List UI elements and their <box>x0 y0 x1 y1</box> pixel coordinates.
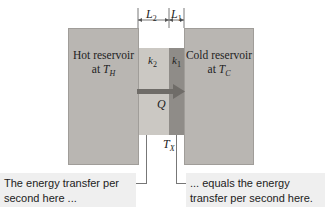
length-label-l1: L1 <box>171 7 182 23</box>
leader-line-left <box>146 135 147 183</box>
interface-temp-label: TX <box>163 137 175 153</box>
cold-reservoir: Cold reservoir at TC <box>184 28 254 165</box>
hot-reservoir-label: Hot reservoir <box>69 48 138 62</box>
cold-reservoir-label: Cold reservoir <box>185 48 253 62</box>
hot-reservoir-temp: at TH <box>69 62 138 81</box>
leader-line-left-h <box>136 183 147 184</box>
caption-left: The energy transfer per second here ... <box>0 173 136 207</box>
length-label-l2: L2 <box>146 7 157 23</box>
heat-flow-label: Q <box>157 97 166 112</box>
leader-line-right <box>176 135 177 183</box>
caption-right: ... equals the energy transfer per secon… <box>186 173 325 207</box>
slab-k1-label: k1 <box>172 54 181 69</box>
cold-reservoir-temp: at TC <box>185 62 253 81</box>
hot-reservoir: Hot reservoir at TH <box>68 28 139 165</box>
slab-k2-label: k2 <box>148 54 157 69</box>
